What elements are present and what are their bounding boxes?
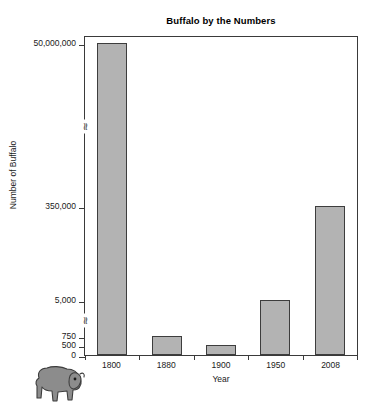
y-tick-label: 50,000,000 xyxy=(33,39,76,48)
bar-slot xyxy=(85,37,139,355)
bar-1880[interactable] xyxy=(152,336,182,355)
chart-figure: Buffalo by the Numbers Number of Buffalo… xyxy=(0,0,383,415)
bar-1800[interactable] xyxy=(97,43,127,355)
bar-1950[interactable] xyxy=(260,300,290,355)
buffalo-icon xyxy=(36,367,84,401)
chart-title: Buffalo by the Numbers xyxy=(84,15,358,26)
axis-break-icon: ≈ xyxy=(78,120,93,134)
y-tick-mark xyxy=(79,45,85,46)
x-axis-title: Year xyxy=(84,374,358,384)
y-tick-label: 500 xyxy=(62,341,76,350)
y-axis-labels: 05007505,000350,00050,000,000 xyxy=(0,36,76,356)
x-tick-label-1950: 1950 xyxy=(248,360,303,370)
y-tick-mark xyxy=(79,338,85,339)
x-tick-label-1900: 1900 xyxy=(194,360,249,370)
buffalo-illustration xyxy=(28,360,90,412)
y-tick-label: 5,000 xyxy=(55,296,76,305)
x-tick-label-2008: 2008 xyxy=(303,360,358,370)
plot-area: ≈≈ xyxy=(84,36,358,356)
y-tick-mark xyxy=(79,208,85,209)
y-tick-mark xyxy=(79,347,85,348)
bar-slot xyxy=(139,37,193,355)
x-tick-label-1800: 1800 xyxy=(84,360,139,370)
y-tick-mark xyxy=(79,302,85,303)
bar-2008[interactable] xyxy=(315,206,345,355)
bar-1900[interactable] xyxy=(206,345,236,355)
x-axis-labels: 18001880190019502008 xyxy=(84,360,358,374)
axis-break-icon: ≈ xyxy=(78,313,93,327)
y-tick-label: 350,000 xyxy=(45,202,76,211)
bar-slot xyxy=(248,37,302,355)
bar-slot xyxy=(194,37,248,355)
bar-slot xyxy=(303,37,357,355)
x-tick-label-1880: 1880 xyxy=(139,360,194,370)
y-tick-label: 0 xyxy=(71,351,76,360)
y-tick-label: 750 xyxy=(62,332,76,341)
